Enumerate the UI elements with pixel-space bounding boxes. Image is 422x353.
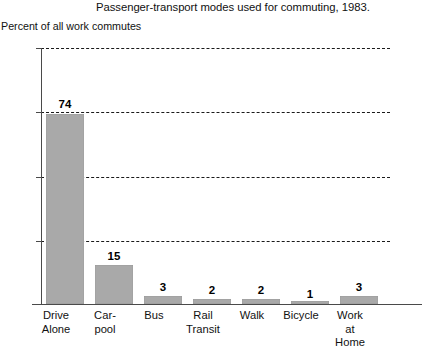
gridline-50	[41, 177, 390, 178]
chart-title: Passenger-transport modes used for commu…	[96, 0, 388, 15]
bar-value-work-at-home: 3	[340, 281, 378, 293]
gridline-75	[41, 112, 390, 113]
bar-value-bus: 3	[144, 281, 182, 293]
bar-value-car-pool: 15	[95, 250, 133, 262]
bar-car-pool[interactable]	[95, 265, 133, 304]
bar-work-at-home[interactable]	[340, 296, 378, 304]
bar-value-bicycle: 1	[291, 288, 329, 300]
bar-walk[interactable]	[242, 299, 280, 304]
y-tick-mark-50	[36, 177, 42, 178]
category-label-line: at	[320, 323, 380, 337]
gridline-25	[41, 241, 390, 242]
category-label-line: pool	[75, 323, 135, 337]
bar-bicycle[interactable]	[291, 301, 329, 304]
bar-value-walk: 2	[242, 284, 280, 296]
y-tick-mark-25	[36, 241, 42, 242]
bar-value-rail-transit: 2	[193, 284, 231, 296]
bar-rail-transit[interactable]	[193, 299, 231, 304]
y-tick-mark-100	[36, 48, 42, 49]
category-label-line: Work	[320, 309, 380, 323]
category-label-line: Home	[320, 336, 380, 350]
category-label-work-at-home: Work at Home	[320, 309, 380, 350]
bar-drive-alone[interactable]	[46, 114, 84, 304]
plot-area: 100 75 50 25 0 74 15 3 2 2 1 3	[41, 48, 390, 305]
bar-bus[interactable]	[144, 296, 182, 304]
category-label-line: Transit	[173, 323, 233, 337]
gridline-100	[41, 48, 390, 49]
bar-value-drive-alone: 74	[46, 98, 84, 110]
y-tick-mark-75	[36, 112, 42, 113]
y-axis-label: Percent of all work commutes	[1, 19, 141, 33]
y-tick-mark-0	[36, 304, 42, 305]
x-axis-line	[32, 304, 422, 305]
